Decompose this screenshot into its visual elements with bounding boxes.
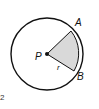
radius-label: r bbox=[57, 63, 60, 72]
center-point bbox=[45, 52, 49, 56]
center-label: P bbox=[35, 51, 42, 62]
circle-sector-diagram: P A B r 2 bbox=[0, 0, 99, 109]
shaded-sector bbox=[47, 31, 79, 71]
point-b-label: B bbox=[77, 71, 84, 82]
problem-number: 2 bbox=[0, 93, 5, 102]
point-a-label: A bbox=[74, 17, 82, 28]
